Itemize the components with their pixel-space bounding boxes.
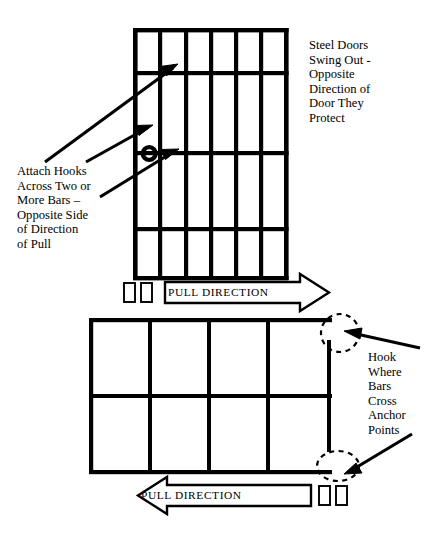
hook-square xyxy=(124,283,135,302)
front-view-bar-grate xyxy=(133,28,289,280)
hook-squares-bottom xyxy=(319,486,347,505)
hook-square xyxy=(336,486,347,505)
plan-view-bar-grate xyxy=(89,314,359,481)
pull-direction-label-top: PULL DIRECTION xyxy=(168,286,269,298)
pull-direction-label-bottom: PULL DIRECTION xyxy=(141,489,242,501)
attach-hooks-note: Attach Hooks Across Two or More Bars – O… xyxy=(17,164,91,252)
diagram-canvas: Steel Doors Swing Out - Opposite Directi… xyxy=(0,0,429,548)
hook-square xyxy=(141,283,152,302)
hook-squares-top xyxy=(124,283,152,302)
hook-anchor-note: Hook Where Bars Cross Anchor Points xyxy=(368,350,406,438)
hook-square xyxy=(319,486,330,505)
steel-doors-note: Steel Doors Swing Out - Opposite Directi… xyxy=(309,38,371,126)
